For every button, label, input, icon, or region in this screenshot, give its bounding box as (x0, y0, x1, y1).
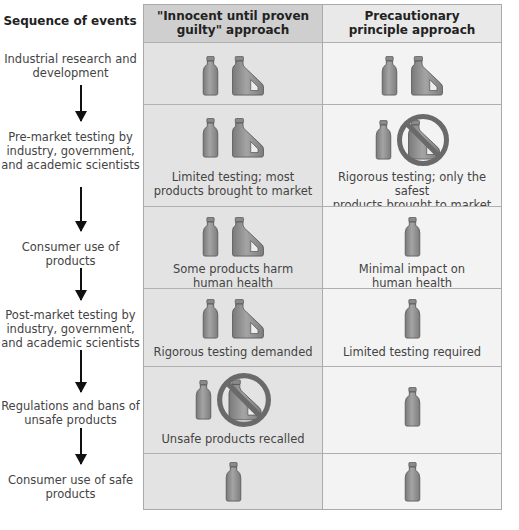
arrow-down-icon (80, 428, 82, 464)
cell-precautionary-premarket: Rigorous testing; only the safest produc… (322, 104, 501, 206)
cell-innocent-safe-use (144, 453, 322, 509)
bottle-icon (225, 462, 242, 502)
jug-icon (410, 56, 444, 96)
cell-precautionary-regulations (322, 366, 501, 453)
cell-caption: Some products harm human health (144, 262, 322, 290)
step-consumer-use-safe: Consumer use of safe products (0, 473, 141, 501)
step-pre-market-testing: Pre-market testing by industry, governme… (0, 130, 141, 172)
bottle-icon (375, 120, 392, 160)
cell-precautionary-safe-use (322, 453, 501, 509)
cell-precautionary-consumer-use: Minimal impact on human health (322, 206, 501, 288)
jug-icon (231, 299, 265, 339)
cell-innocent-postmarket: Rigorous testing demanded (144, 288, 322, 366)
caption-line: products brought to market (144, 184, 322, 198)
banned-jug-icon (396, 113, 450, 167)
header-line: guilty" approach (144, 23, 322, 37)
cell-innocent-regulations: Unsafe products recalled (144, 366, 322, 453)
cell-caption: Unsafe products recalled (144, 432, 322, 446)
header-line: Precautionary (323, 9, 501, 23)
caption-line: Unsafe products recalled (144, 432, 322, 446)
caption-line: Rigorous testing demanded (144, 345, 322, 359)
cell-precautionary-research (322, 42, 501, 104)
bottle-icon (202, 56, 219, 96)
step-industrial-research: Industrial research and development (0, 52, 141, 80)
cell-caption: Limited testing; most products brought t… (144, 170, 322, 198)
cell-caption: Rigorous testing demanded (144, 345, 322, 359)
comparison-table: "Innocent until proven guilty" approach … (143, 4, 502, 510)
step-regulations-bans: Regulations and bans of unsafe products (0, 399, 141, 427)
step-consumer-use: Consumer use of products (0, 240, 141, 268)
caption-line: Rigorous testing; only the safest (323, 170, 501, 198)
cell-caption: Limited testing required (323, 345, 501, 359)
cell-caption: Minimal impact on human health (323, 262, 501, 290)
arrow-down-icon (80, 85, 82, 121)
bottle-icon (381, 56, 398, 96)
jug-icon (231, 217, 265, 257)
bottle-icon (404, 299, 421, 339)
cell-precautionary-postmarket: Limited testing required (322, 288, 501, 366)
bottle-icon (195, 380, 212, 420)
caption-line: Some products harm (144, 262, 322, 276)
bottle-icon (202, 299, 219, 339)
caption-line: Minimal impact on (323, 262, 501, 276)
jug-icon (231, 56, 265, 96)
sequence-heading: Sequence of events (0, 14, 140, 28)
caption-line: Limited testing; most (144, 170, 322, 184)
bottle-icon (404, 462, 421, 502)
cell-innocent-research (144, 42, 322, 104)
cell-innocent-premarket: Limited testing; most products brought t… (144, 104, 322, 206)
arrow-down-icon (80, 187, 82, 231)
header-line: "Innocent until proven (144, 9, 322, 23)
column-header-precautionary: Precautionary principle approach (322, 5, 501, 42)
step-post-market-testing: Post-market testing by industry, governm… (0, 308, 141, 350)
bottle-icon (404, 387, 421, 427)
arrow-down-icon (80, 350, 82, 392)
banned-jug-icon (216, 372, 272, 428)
column-header-innocent: "Innocent until proven guilty" approach (144, 5, 322, 42)
caption-line: Limited testing required (323, 345, 501, 359)
jug-icon (231, 118, 265, 158)
arrow-down-icon (80, 268, 82, 300)
bottle-icon (202, 217, 219, 257)
bottle-icon (202, 118, 219, 158)
cell-innocent-consumer-use: Some products harm human health (144, 206, 322, 288)
header-line: principle approach (323, 23, 501, 37)
bottle-icon (404, 217, 421, 257)
